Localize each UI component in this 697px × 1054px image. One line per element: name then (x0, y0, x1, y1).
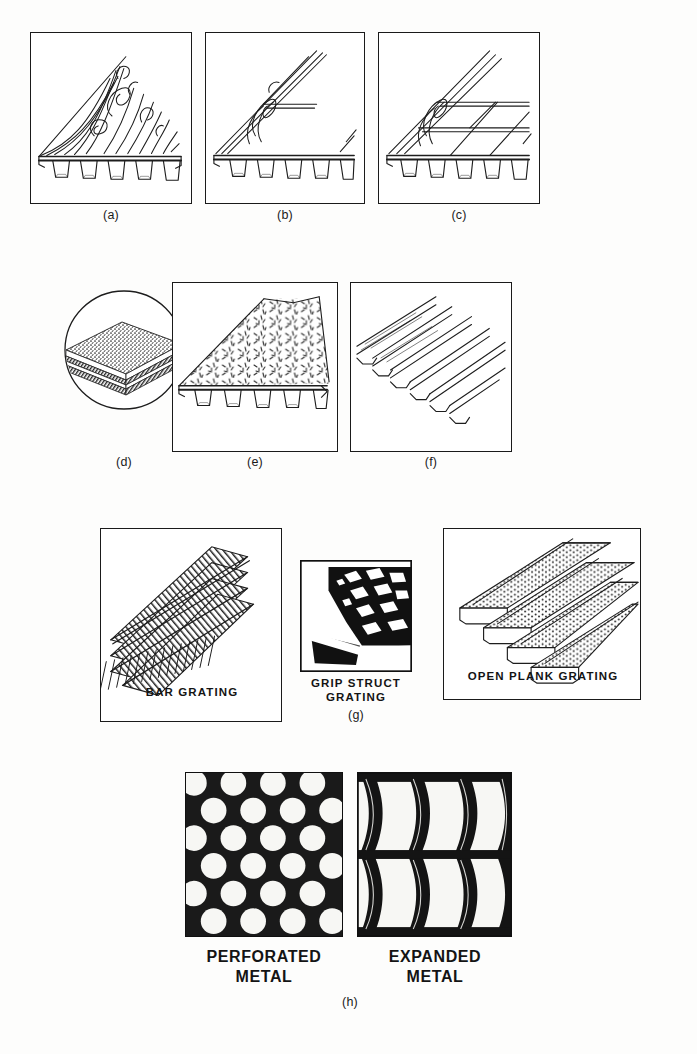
panel-f-illustration (351, 283, 511, 451)
open-plank-label: OPEN PLANK GRATING (444, 669, 641, 683)
caption-g: (g) (296, 708, 416, 722)
panel-f-bare-corrugated-deck (350, 282, 512, 452)
panel-b-illustration (206, 33, 364, 203)
caption-e: (e) (172, 455, 338, 469)
bar-grating-label: BAR GRATING (101, 685, 282, 699)
grip-strut-label-line1: GRIP STRUCT (286, 676, 426, 690)
caption-a: (a) (30, 208, 192, 222)
panel-c-grid-planks-deck (378, 32, 540, 204)
panel-a-illustration (31, 33, 191, 203)
panel-g-bar-grating: BAR GRATING (100, 528, 282, 722)
expanded-metal-illustration (358, 773, 511, 936)
perforated-metal-illustration (186, 773, 342, 936)
panel-d-layered-detail (62, 288, 186, 412)
perforated-metal-label-line2: METAL (168, 970, 360, 984)
caption-f: (f) (350, 455, 512, 469)
caption-d: (d) (62, 455, 186, 469)
panel-g-open-plank-grating: OPEN PLANK GRATING (443, 528, 641, 700)
panel-h-expanded-metal (357, 772, 512, 937)
panel-c-illustration (379, 33, 539, 203)
panel-e-illustration (173, 283, 337, 451)
expanded-metal-label-line2: METAL (345, 970, 525, 984)
panel-e-nonslip-surfacing-deck (172, 282, 338, 452)
panel-g-grip-strut-grating (300, 560, 412, 672)
grip-strut-illustration (301, 561, 411, 671)
figure-page: (a) (0, 0, 697, 1054)
caption-c: (c) (378, 208, 540, 222)
panel-b-partial-plank-deck (205, 32, 365, 204)
grip-strut-label-line2: GRATING (286, 690, 426, 704)
panel-d-illustration (62, 288, 186, 412)
expanded-metal-label-line1: EXPANDED (345, 950, 525, 964)
panel-h-perforated-metal (185, 772, 343, 937)
caption-b: (b) (205, 208, 365, 222)
perforated-metal-label-line1: PERFORATED (168, 950, 360, 964)
caption-h: (h) (290, 995, 410, 1009)
panel-a-wood-plank-deck (30, 32, 192, 204)
